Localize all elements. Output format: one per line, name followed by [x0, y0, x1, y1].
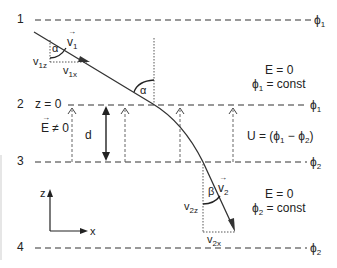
plane-3-potential: ϕ2 [310, 156, 321, 171]
field-arrowheads [68, 108, 237, 114]
plane-3-label: 3 [17, 155, 24, 167]
top-potential-label: ϕ1 = const [252, 78, 306, 93]
z-zero-label: z = 0 [35, 98, 61, 110]
v1-arrowhead [78, 56, 90, 62]
top-field-label: E = 0 [265, 64, 293, 76]
beta-label: β [208, 186, 214, 197]
bottom-field-label: E = 0 [265, 188, 293, 200]
gap-d-label: d [85, 129, 92, 141]
plane-1-label: 1 [17, 13, 24, 25]
v1x-label: v1x [63, 65, 77, 79]
plane-2-label: 2 [17, 98, 24, 110]
plane-4-label: 4 [17, 241, 24, 253]
beta-arc [203, 196, 220, 204]
v2z-label: v2z [184, 201, 198, 215]
voltage-label: U = (ϕ1 − ϕ2) [247, 130, 313, 145]
v2-arrowhead [228, 218, 235, 232]
x-axis-label: x [90, 226, 96, 237]
plane-1-potential: ϕ1 [314, 14, 325, 29]
v1z-label: v1z [33, 56, 47, 70]
v2x-label: v2x [207, 234, 221, 248]
plane-4-potential: ϕ2 [310, 242, 321, 257]
gap-field-label: →E ≠ 0 [41, 122, 69, 134]
electron-refraction-diagram: 1 2 3 4 z = 0 ϕ1 ϕ1 ϕ2 ϕ2 E = 0 ϕ1 = con… [0, 0, 337, 268]
v1-label: →v1 [67, 36, 77, 51]
plane-2-potential: ϕ1 [310, 99, 321, 114]
bottom-potential-label: ϕ2 = const [252, 202, 306, 217]
v2-label: →v2 [218, 182, 228, 197]
z-axis-label: z [40, 188, 46, 199]
alpha-label-2: α [140, 85, 146, 96]
alpha-label-1: α [52, 43, 58, 54]
